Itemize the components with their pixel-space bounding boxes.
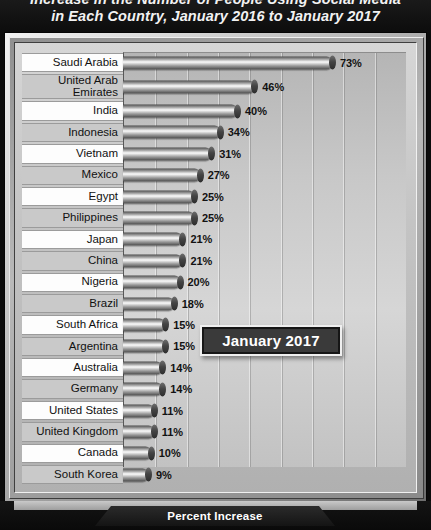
bar (123, 56, 333, 69)
bar-value-label: 27% (208, 169, 230, 181)
bar-value-label: 25% (202, 212, 224, 224)
category-label: United Kingdom (22, 422, 123, 441)
category-label: Mexico (22, 166, 123, 185)
chart-row: India40% (22, 100, 405, 121)
bar (123, 126, 221, 139)
bar-value-label: 31% (219, 148, 241, 160)
bar-end-cap (159, 361, 166, 375)
bar-value-label: 15% (173, 340, 195, 352)
bar-container: 40% (123, 100, 405, 121)
bar-value-label: 21% (190, 255, 212, 267)
bar-end-cap (162, 318, 169, 332)
bar (123, 80, 255, 93)
bar-end-cap (191, 211, 198, 225)
bar-end-cap (234, 104, 241, 118)
bar-container: 20% (123, 272, 405, 293)
infographic-chart: Increase in the Number of People Using S… (0, 0, 431, 530)
category-label: China (22, 251, 123, 270)
bar-end-cap (197, 168, 204, 182)
category-label: United Arab Emirates (22, 74, 123, 99)
bar-value-label: 40% (245, 105, 267, 117)
bar-end-cap (171, 297, 178, 311)
chart-row: Canada10% (22, 443, 405, 464)
axis-label-text: Percent Increase (167, 510, 262, 522)
bar-value-label: 15% (173, 319, 195, 331)
chart-row: Vietnam31% (22, 143, 405, 164)
chart-row: Saudi Arabia73% (22, 52, 405, 73)
bar (123, 169, 201, 182)
bar-value-label: 21% (190, 233, 212, 245)
bar (123, 383, 163, 396)
category-label: Philippines (22, 208, 123, 227)
bar (123, 404, 155, 417)
bar-value-label: 18% (182, 298, 204, 310)
bar (123, 447, 152, 460)
bar-end-cap (329, 56, 336, 70)
category-label: Egypt (22, 187, 123, 206)
bar-container: 18% (123, 293, 405, 314)
chart-row: Indonesia34% (22, 122, 405, 143)
bar (123, 318, 166, 331)
axis-label-banner: Percent Increase (95, 506, 335, 526)
chart-row: Mexico27% (22, 165, 405, 186)
bar-rows: Saudi Arabia73%United Arab Emirates46%In… (22, 52, 405, 485)
bar-end-cap (148, 446, 155, 460)
bar-end-cap (191, 190, 198, 204)
bar-container: 9% (123, 464, 405, 485)
category-label: Australia (22, 358, 123, 377)
bar-end-cap (179, 232, 186, 246)
bar (123, 425, 155, 438)
chart-row: United Arab Emirates46% (22, 73, 405, 100)
bar-value-label: 14% (170, 362, 192, 374)
bar-container: 14% (123, 378, 405, 399)
bar-end-cap (151, 425, 158, 439)
bar-container: 27% (123, 165, 405, 186)
bar-value-label: 46% (262, 81, 284, 93)
chart-row: Germany14% (22, 378, 405, 399)
chart-row: Australia14% (22, 357, 405, 378)
bar-value-label: 11% (162, 426, 183, 438)
bar-end-cap (179, 254, 186, 268)
bar-value-label: 14% (170, 383, 192, 395)
bar-end-cap (162, 339, 169, 353)
chart-row: Japan21% (22, 229, 405, 250)
bar (123, 105, 238, 118)
chart-row: South Korea9% (22, 464, 405, 485)
category-label: Brazil (22, 294, 123, 313)
chart-title-line-2: in Each Country, January 2016 to January… (0, 8, 431, 24)
category-label: Argentina (22, 337, 123, 356)
bar-value-label: 11% (162, 405, 183, 417)
bar-container: 21% (123, 250, 405, 271)
bar (123, 233, 183, 246)
bar (123, 361, 163, 374)
category-label: South Korea (22, 465, 123, 484)
bar-end-cap (208, 147, 215, 161)
chart-title-line-1: Increase in the Number of People Using S… (0, 0, 431, 7)
chart-title: Increase in the Number of People Using S… (0, 0, 431, 34)
bar (123, 190, 195, 203)
category-label: Canada (22, 444, 123, 463)
category-label: India (22, 101, 123, 120)
bar-end-cap (145, 468, 152, 482)
chart-row: United Kingdom11% (22, 421, 405, 442)
chart-row: Nigeria20% (22, 272, 405, 293)
bar-value-label: 9% (156, 469, 172, 481)
bar (123, 276, 181, 289)
category-label: South Africa (22, 315, 123, 334)
chart-row: Philippines25% (22, 207, 405, 228)
chart-row: China21% (22, 250, 405, 271)
chart-plot-area: Saudi Arabia73%United Arab Emirates46%In… (22, 52, 405, 476)
bar-value-label: 34% (228, 126, 250, 138)
bar (123, 340, 166, 353)
bar-value-label: 73% (340, 57, 362, 69)
bar-end-cap (251, 80, 258, 94)
bar-value-label: 25% (202, 191, 224, 203)
bar-end-cap (151, 404, 158, 418)
bar-container: 10% (123, 443, 405, 464)
bar (123, 147, 212, 160)
category-label: Vietnam (22, 144, 123, 163)
bar-container: 21% (123, 229, 405, 250)
category-label: Indonesia (22, 123, 123, 142)
callout-january-2017: January 2017 (200, 325, 342, 356)
category-label: Japan (22, 230, 123, 249)
